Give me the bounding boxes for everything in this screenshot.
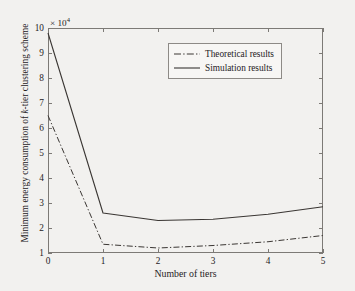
legend-label-simulation: Simulation results <box>205 63 272 73</box>
solid-line-sample <box>173 63 201 73</box>
legend-item-theoretical: Theoretical results <box>173 47 274 61</box>
series-line <box>48 116 323 249</box>
legend-label-theoretical: Theoretical results <box>205 49 274 59</box>
legend: Theoretical results Simulation results <box>168 43 282 79</box>
chart-figure: Minimum energy consumption of k-tier clu… <box>0 0 355 291</box>
legend-item-simulation: Simulation results <box>173 61 274 75</box>
dash-dot-line-sample <box>173 49 201 59</box>
